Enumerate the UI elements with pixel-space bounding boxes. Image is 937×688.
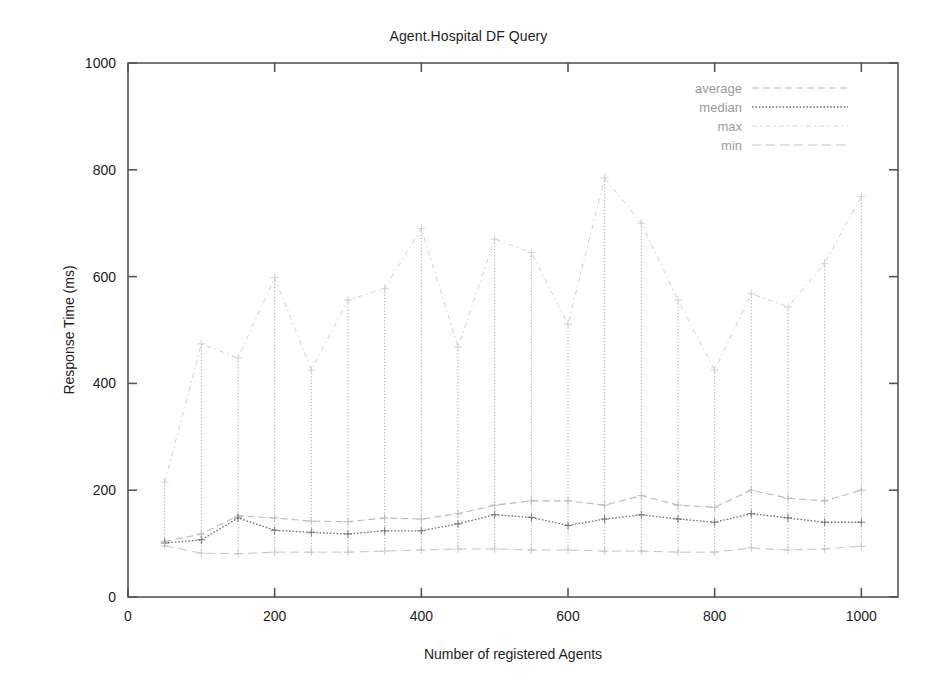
y-tick-label: 800 [50,162,116,178]
legend-item-min: min [632,138,742,153]
legend-sample-lines [752,88,848,145]
x-tick-label: 0 [124,608,132,624]
x-tick-label: 800 [703,608,726,624]
y-tick-label: 600 [50,269,116,285]
axes-frame [128,63,898,597]
legend-item-average: average [632,81,742,96]
data-series-layer [161,174,866,558]
x-tick-label: 600 [556,608,579,624]
plot-area [0,0,937,688]
x-tick-label: 1000 [846,608,877,624]
chart-figure: Agent.Hospital DF Query Response Time (m… [0,0,937,688]
y-tick-label: 400 [50,375,116,391]
y-tick-label: 200 [50,482,116,498]
legend-item-max: max [632,119,742,134]
x-tick-label: 400 [410,608,433,624]
legend-item-median: median [632,100,742,115]
y-tick-label: 1000 [50,55,116,71]
x-tick-label: 200 [263,608,286,624]
y-tick-label: 0 [50,589,116,605]
